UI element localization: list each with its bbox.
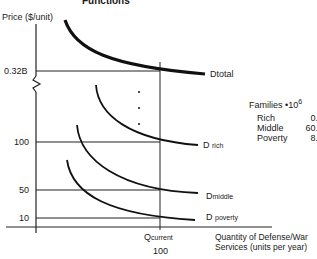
curve-dmiddle — [77, 125, 198, 193]
chart-title: Functions — [82, 0, 130, 6]
label-drich: D rich — [203, 141, 223, 150]
y-tick-0: 0.32B — [4, 67, 28, 76]
legend-row-middle: Middle60.9 — [257, 123, 317, 133]
legend-table: Rich0.7 Middle60.9 Poverty8.4 — [257, 113, 317, 143]
y-axis-label: Price ($/unit) — [2, 13, 53, 22]
y-tick-1: 100 — [14, 138, 29, 147]
y-tick-2: 50 — [19, 186, 29, 195]
y-tick-3: 10 — [19, 214, 29, 223]
label-dpoverty: D poverty — [206, 213, 238, 222]
ellipsis-dot — [138, 123, 140, 125]
label-dmiddle: Dmiddle — [206, 192, 233, 201]
x-tick-value: 100 — [153, 247, 168, 256]
ellipsis-dot — [138, 107, 140, 109]
legend-row-rich: Rich0.7 — [257, 113, 317, 123]
label-dtotal: Dtotal — [210, 70, 234, 79]
legend-title: Families •106 — [249, 98, 302, 110]
curve-drich — [96, 85, 198, 145]
axis-break-icon — [33, 76, 40, 92]
legend-row-poverty: Poverty8.4 — [257, 133, 317, 143]
x-tick-qcurrent: Qcurrent — [144, 233, 173, 242]
ellipsis-dot — [138, 91, 140, 93]
x-axis-label: Quantity of Defense/War Services (units … — [215, 232, 315, 252]
curve-dtotal — [65, 20, 205, 74]
